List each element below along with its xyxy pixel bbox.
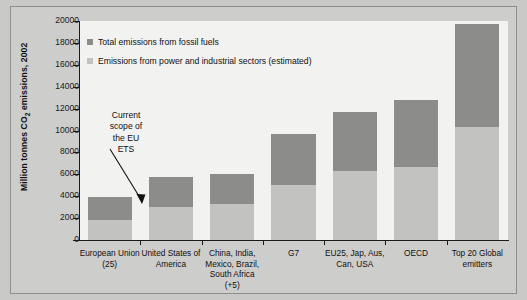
bar-segment-power-industrial [271,185,315,240]
bar-segment-power-industrial [394,167,438,240]
x-axis-category-label: Top 20 Globalemitters [447,248,508,269]
y-axis-tick-label: 6000 [27,169,79,178]
annotation-line: the EU [95,133,157,144]
legend-item: Total emissions from fossil fuels [87,37,312,47]
x-axis-label-line: G7 [263,248,324,259]
x-axis-category-label: China, India,Mexico, Brazil,South Africa… [202,248,263,290]
x-axis-label-line: emitters [447,259,508,270]
x-axis-tick [447,240,448,245]
x-axis-category-label: European Union(25) [79,248,140,269]
bar-stack [333,112,377,240]
legend-swatch-icon [87,58,93,64]
x-axis-tick [385,240,386,245]
y-axis-label-post: emissions, 2002 [19,43,29,113]
x-axis-tick [263,240,264,245]
bar-stack [149,177,193,240]
y-axis-label-pre: Million tonnes CO [19,116,29,191]
bar-stack [455,24,499,240]
chart-legend: Total emissions from fossil fuelsEmissio… [87,37,312,75]
x-axis-label-line: (+5) [202,280,263,291]
bar-segment-power-industrial [149,207,193,240]
x-axis-category-label: EU25, Jap, Aus,Can, USA [324,248,385,269]
x-axis-label-line: Mexico, Brazil, [202,259,263,270]
y-axis-tick-label: 2000 [27,213,79,222]
y-axis-tick-label: 8000 [27,147,79,156]
bar-stack [271,134,315,240]
x-axis-tick [202,240,203,245]
x-axis-label-line: Top 20 Global [447,248,508,259]
x-axis-category-label: United States ofAmerica [140,248,201,269]
x-axis-label-line: EU25, Jap, Aus, [324,248,385,259]
bar-stack [210,174,254,240]
x-axis-label-line: South Africa [202,269,263,280]
annotation-line: Current [95,110,157,121]
x-axis-label-line: European Union [79,248,140,259]
x-axis-category-label: OECD [385,248,446,259]
annotation-arrow-icon [107,147,153,209]
legend-item-label: Total emissions from fossil fuels [98,37,219,47]
bar-segment-power-industrial [210,204,254,240]
bar-segment-power-industrial [455,127,499,240]
y-axis-label-subscript: 2 [24,113,31,117]
legend-swatch-icon [87,39,93,45]
y-axis-label: Million tonnes CO2 emissions, 2002 [19,12,31,222]
x-axis-label-line: Can, USA [324,259,385,270]
bar-segment-power-industrial [88,220,132,240]
x-axis-tick [324,240,325,245]
bar-segment-power-industrial [333,171,377,240]
y-axis-tick-label: 0 [27,235,79,244]
annotation-line: scope of [95,121,157,132]
x-axis-label-line: United States of [140,248,201,259]
y-axis-tick-label: 10000 [27,126,79,135]
x-axis-tick [140,240,141,245]
legend-item: Emissions from power and industrial sect… [87,56,312,66]
legend-item-label: Emissions from power and industrial sect… [98,56,312,66]
y-axis-tick-label: 16000 [27,60,79,69]
x-axis-label-line: China, India, [202,248,263,259]
x-axis-line [79,240,509,241]
x-axis-label-line: America [140,259,201,270]
y-axis-tick-label: 12000 [27,104,79,113]
y-axis-tick-label: 4000 [27,191,79,200]
x-axis-category-label: G7 [263,248,324,259]
x-axis-label-line: (25) [79,259,140,270]
y-axis-tick-label: 20000 [27,16,79,25]
y-axis-tick-label: 18000 [27,38,79,47]
chart-figure: 0200040006000800010000120001400016000180… [10,6,517,294]
x-axis-label-line: OECD [385,248,446,259]
y-axis-tick-label: 14000 [27,82,79,91]
bar-stack [394,100,438,240]
